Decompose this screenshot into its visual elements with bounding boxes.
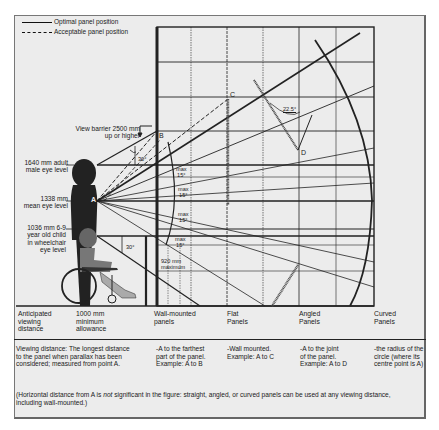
deg-text: 15° xyxy=(178,217,189,223)
angle-22-5: 22.5° xyxy=(283,106,296,112)
category-wall-mounted: Wall-mounted panels xyxy=(154,310,196,325)
legend-acceptable: Acceptable panel position xyxy=(22,27,128,37)
cat-line: panels xyxy=(154,318,196,326)
mean-eye-line1: 1338 mm xyxy=(8,195,68,202)
point-c-label: C xyxy=(230,92,235,98)
category-minimum-allowance: 1000 mm minimum allowance xyxy=(76,310,106,333)
desc-line: of the panel. xyxy=(300,353,347,361)
category-anticipated: Anticipated viewing distance xyxy=(18,310,52,333)
view-barrier-line2: up or higher xyxy=(60,132,140,139)
child-eye-level-label: 1036 mm 6-9 year old child in wheelchair… xyxy=(8,224,66,254)
footnote: (Horizontal distance from A is not signi… xyxy=(16,391,396,406)
child-eye-line3: in wheelchair xyxy=(8,239,66,246)
adult-eye-line1: 1640 mm adult xyxy=(8,159,68,166)
category-flat: Flat Panels xyxy=(227,310,248,325)
cat-line: viewing xyxy=(18,318,52,326)
desc-line: part of the panel. xyxy=(156,353,206,361)
desc-line: considered; measured from point A. xyxy=(16,360,130,368)
mean-eye-level-label: 1338 mm mean eye level xyxy=(8,195,68,210)
note-pre: (Horizontal distance from A is xyxy=(16,391,103,398)
view-barrier-label: View barrier 2500 mm up or higher xyxy=(60,125,140,140)
cat-line: 1000 mm xyxy=(76,310,106,318)
desc-line: Example: A to B xyxy=(156,360,206,368)
max-920-line2: maximum xyxy=(161,264,185,270)
legend-acceptable-label: Acceptable panel position xyxy=(54,27,128,37)
cat-line: minimum xyxy=(76,318,106,326)
deg-text: 15° xyxy=(176,172,187,178)
point-b-label: B xyxy=(159,133,164,139)
desc-angled: -A to the joint of the panel. Example: A… xyxy=(300,345,347,368)
adult-eye-line2: male eye level xyxy=(8,166,68,173)
desc-line: Example: A to D xyxy=(300,360,347,368)
divider xyxy=(14,339,426,340)
child-eye-line4: eye level xyxy=(8,246,66,253)
desc-curved: -the radius of the circle (where its cen… xyxy=(374,345,423,368)
desc-wall-mounted: -A to the farthest part of the panel. Ex… xyxy=(156,345,206,368)
cat-line: Panels xyxy=(374,318,396,326)
legend-optimal-label: Optimal panel position xyxy=(54,17,118,27)
point-a-label: A xyxy=(91,197,96,203)
cat-line: Curved xyxy=(374,310,396,318)
solid-line-swatch xyxy=(22,22,52,23)
view-barrier-line1: View barrier 2500 mm xyxy=(60,125,140,132)
child-eye-line2: year old child xyxy=(8,231,66,238)
cat-line: Anticipated xyxy=(18,310,52,318)
deg-text: 15° xyxy=(178,192,189,198)
max-15-label-4: max15° xyxy=(175,236,186,248)
desc-line: circle (where its xyxy=(374,353,423,361)
desc-line: centre point is A) xyxy=(374,360,423,368)
desc-line: -A to the joint xyxy=(300,345,347,353)
point-d-label: D xyxy=(301,150,306,156)
desc-line: -the radius of the xyxy=(374,345,423,353)
desc-line: -Wall mounted. xyxy=(227,345,274,353)
max-15-label-2: max15° xyxy=(178,186,189,198)
cat-line: Angled xyxy=(299,310,320,318)
desc-flat: -Wall mounted. Example: A to C xyxy=(227,345,274,360)
dashed-line-swatch xyxy=(22,32,52,33)
cat-line: Flat xyxy=(227,310,248,318)
cat-line: Panels xyxy=(227,318,248,326)
max-15-label-3: max15° xyxy=(178,211,189,223)
legend-optimal: Optimal panel position xyxy=(22,17,128,27)
max-920-label: 920 mmmaximum xyxy=(161,258,185,270)
child-eye-line1: 1036 mm 6-9 xyxy=(8,224,66,231)
note-emphasis: not xyxy=(103,391,112,398)
adult-eye-level-label: 1640 mm adult male eye level xyxy=(8,159,68,174)
category-curved: Curved Panels xyxy=(374,310,396,325)
max-15-label-1: max15° xyxy=(176,166,187,178)
desc-line: -A to the farthest xyxy=(156,345,206,353)
cat-line: Panels xyxy=(299,318,320,326)
desc-line: Example: A to C xyxy=(227,353,274,361)
cat-line: allowance xyxy=(76,325,106,333)
angle-30-top: 30° xyxy=(138,156,146,162)
legend: Optimal panel position Acceptable panel … xyxy=(22,17,128,37)
cat-line: distance xyxy=(18,325,52,333)
desc-line: Viewing distance: The longest distance xyxy=(16,345,130,353)
angle-30-bottom: 30° xyxy=(126,244,134,250)
cat-line: Wall-mounted xyxy=(154,310,196,318)
desc-viewing-distance: Viewing distance: The longest distance t… xyxy=(16,345,130,368)
deg-text: 15° xyxy=(175,242,186,248)
desc-line: to the panel when parallax has been xyxy=(16,353,130,361)
category-angled: Angled Panels xyxy=(299,310,320,325)
mean-eye-line2: mean eye level xyxy=(8,202,68,209)
